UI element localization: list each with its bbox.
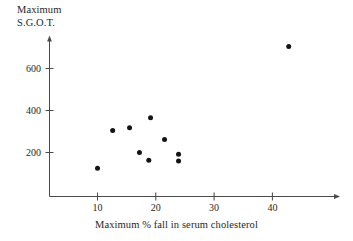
data-point: [146, 158, 151, 163]
data-point: [95, 166, 100, 171]
data-point: [176, 152, 181, 157]
y-axis: [47, 36, 52, 197]
data-point: [162, 137, 167, 142]
x-axis: [50, 194, 341, 199]
right-arrow-icon: [334, 194, 340, 199]
scatter-plot-figure: MaximumS.G.O.T. 600 400 200: [0, 0, 353, 241]
data-point: [137, 150, 142, 155]
x-tick-label-40: 40: [267, 202, 277, 213]
x-tick-label-20: 20: [151, 202, 161, 213]
up-arrow-icon: [47, 36, 52, 42]
data-points-layer: [95, 44, 291, 171]
x-tick-label-10: 10: [93, 202, 103, 213]
y-tick-label-200: 200: [26, 147, 41, 158]
data-point: [286, 44, 291, 49]
y-tick-label-600: 600: [26, 63, 41, 74]
y-tick-label-400: 400: [26, 105, 41, 116]
data-point: [148, 115, 153, 120]
x-tick-label-30: 30: [209, 202, 219, 213]
plot-area: 600 400 200 10 20 30 40: [0, 0, 353, 241]
data-point: [127, 125, 132, 130]
x-axis-label: Maximum % fall in serum cholesterol: [0, 219, 353, 230]
data-point: [176, 158, 181, 163]
data-point: [110, 128, 115, 133]
